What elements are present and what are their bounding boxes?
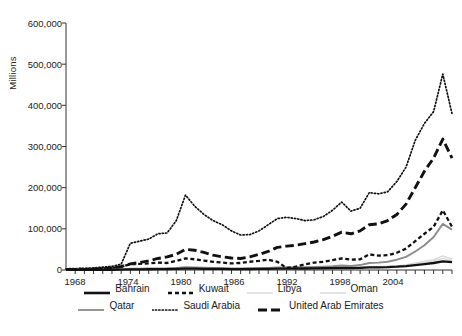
legend-label-qatar: Qatar <box>109 300 134 311</box>
legend-item-oman[interactable]: Oman <box>320 283 378 294</box>
y-axis-ticks <box>62 23 66 270</box>
legend-row-1: Bahrain Kuwait Libya Oman <box>0 283 462 294</box>
legend-item-united-arab-emirates[interactable]: United Arab Emirates <box>258 300 384 311</box>
legend-label-saudi-arabia: Saudi Arabia <box>183 300 240 311</box>
chart-legend: Bahrain Kuwait Libya Oman <box>0 283 462 311</box>
data-series-group <box>66 74 452 270</box>
series-line-united-arab-emirates <box>66 139 452 270</box>
legend-label-kuwait: Kuwait <box>199 283 229 294</box>
legend-swatch-oman <box>320 284 346 294</box>
chart-figure: Millions 600,000 500,000 400,000 300,000… <box>0 0 462 336</box>
legend-item-qatar[interactable]: Qatar <box>78 300 134 311</box>
legend-item-libya[interactable]: Libya <box>247 283 302 294</box>
legend-label-bahrain: Bahrain <box>115 283 149 294</box>
x-axis-ticks <box>75 270 452 274</box>
legend-item-saudi-arabia[interactable]: Saudi Arabia <box>152 300 240 311</box>
series-line-saudi-arabia <box>66 74 452 269</box>
legend-label-oman: Oman <box>351 283 378 294</box>
axis-lines <box>66 23 452 270</box>
legend-swatch-qatar <box>78 301 104 311</box>
legend-label-united-arab-emirates: United Arab Emirates <box>289 300 384 311</box>
legend-swatch-bahrain <box>84 284 110 294</box>
legend-row-2: Qatar Saudi Arabia United Arab Emirates <box>0 300 462 311</box>
legend-label-libya: Libya <box>278 283 302 294</box>
legend-item-kuwait[interactable]: Kuwait <box>168 283 229 294</box>
legend-swatch-united-arab-emirates <box>258 301 284 311</box>
legend-swatch-kuwait <box>168 284 194 294</box>
legend-swatch-libya <box>247 284 273 294</box>
legend-swatch-saudi-arabia <box>152 301 178 311</box>
legend-item-bahrain[interactable]: Bahrain <box>84 283 149 294</box>
